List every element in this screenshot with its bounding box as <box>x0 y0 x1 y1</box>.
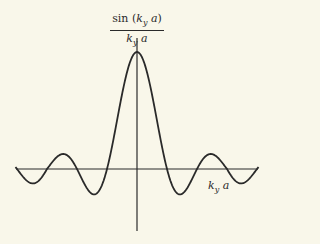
y-label-numerator: sin (ky a) <box>110 12 164 31</box>
y-label-denominator: ky a <box>110 31 164 49</box>
y-axis-label: sin (ky a) ky a <box>110 12 164 49</box>
x-axis-label: ky a <box>208 179 229 194</box>
